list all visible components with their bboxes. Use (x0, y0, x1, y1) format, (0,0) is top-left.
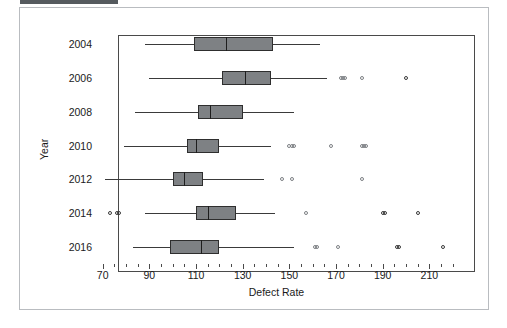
median-line-2012 (184, 172, 185, 186)
x-axis-minor-tick (161, 264, 162, 267)
y-axis-label-2014: 2014 (48, 208, 92, 218)
whisker-low-2004 (145, 44, 194, 45)
box-2016 (170, 240, 219, 254)
whisker-low-2010 (124, 146, 187, 147)
box-2006 (222, 71, 271, 85)
x-axis-tick-label-150: 150 (274, 270, 304, 281)
outlier-2010-183 (364, 144, 368, 148)
faint-header-text (130, 0, 430, 7)
x-axis-minor-tick (266, 264, 267, 267)
x-axis-minor-tick (278, 264, 279, 267)
y-axis-label-2004: 2004 (48, 39, 92, 49)
x-axis-minor-tick (359, 264, 360, 267)
box-2010 (187, 139, 220, 153)
outlier-2010-168 (329, 144, 333, 148)
y-axis-title: Year (38, 138, 50, 159)
outlier-2014-205 (416, 211, 420, 215)
x-axis-minor-tick (301, 264, 302, 267)
x-axis-minor-tick (406, 264, 407, 267)
x-axis-tick-label-70: 70 (88, 270, 118, 281)
whisker-low-2014 (145, 213, 196, 214)
x-axis-tick-label-110: 110 (181, 270, 211, 281)
box-2004 (194, 37, 273, 51)
median-line-2014 (208, 206, 209, 220)
whisker-low-2008 (135, 112, 198, 113)
x-axis-minor-tick (126, 264, 127, 267)
x-axis-tick-label-210: 210 (414, 270, 444, 281)
x-axis-minor-tick (173, 264, 174, 267)
x-axis-tick-label-130: 130 (228, 270, 258, 281)
box-2014 (196, 206, 236, 220)
median-line-2006 (245, 71, 246, 85)
median-line-2004 (226, 37, 227, 51)
box-2012 (173, 172, 203, 186)
y-axis-label-2006: 2006 (48, 73, 92, 83)
x-axis-minor-tick (453, 264, 454, 267)
whisker-high-2004 (273, 44, 320, 45)
y-axis-label-2016: 2016 (48, 242, 92, 252)
x-axis-minor-tick (138, 264, 139, 267)
y-axis-label-2008: 2008 (48, 107, 92, 117)
x-axis-minor-tick (208, 264, 209, 267)
x-axis-minor-tick (231, 264, 232, 267)
x-axis-tick-label-190: 190 (368, 270, 398, 281)
whisker-low-2016 (133, 247, 170, 248)
median-line-2016 (201, 240, 202, 254)
median-line-2010 (196, 139, 197, 153)
x-axis-tick-label-90: 90 (134, 270, 164, 281)
x-axis-minor-tick (348, 264, 349, 267)
x-axis-tick-label-170: 170 (321, 270, 351, 281)
outlier-2006-181 (360, 76, 364, 80)
whisker-high-2012 (203, 179, 264, 180)
x-axis-minor-tick (371, 264, 372, 267)
whisker-low-2006 (149, 78, 221, 79)
y-axis-label-2012: 2012 (48, 174, 92, 184)
x-axis-minor-tick (324, 264, 325, 267)
whisker-high-2006 (271, 78, 327, 79)
x-axis-minor-tick (114, 264, 115, 267)
x-axis-minor-tick (418, 264, 419, 267)
median-line-2008 (210, 105, 211, 119)
box-2008 (198, 105, 242, 119)
whisker-high-2014 (236, 213, 276, 214)
x-axis-minor-tick (254, 264, 255, 267)
x-axis-minor-tick (184, 264, 185, 267)
x-axis-minor-tick (313, 264, 314, 267)
plot-area (118, 35, 475, 272)
whisker-low-2012 (105, 179, 173, 180)
outlier-2010-152 (292, 144, 296, 148)
whisker-high-2010 (219, 146, 270, 147)
whisker-high-2016 (219, 247, 294, 248)
y-axis-label-2010: 2010 (48, 141, 92, 151)
outlier-2006-200 (404, 76, 408, 80)
whisker-high-2008 (243, 112, 294, 113)
header-accent-bar (20, 0, 118, 4)
outlier-2014-73 (108, 211, 112, 215)
x-axis-minor-tick (219, 264, 220, 267)
x-axis-title: Defect Rate (217, 286, 337, 298)
outlier-2014-157 (304, 211, 308, 215)
x-axis-minor-tick (394, 264, 395, 267)
x-axis-minor-tick (441, 264, 442, 267)
